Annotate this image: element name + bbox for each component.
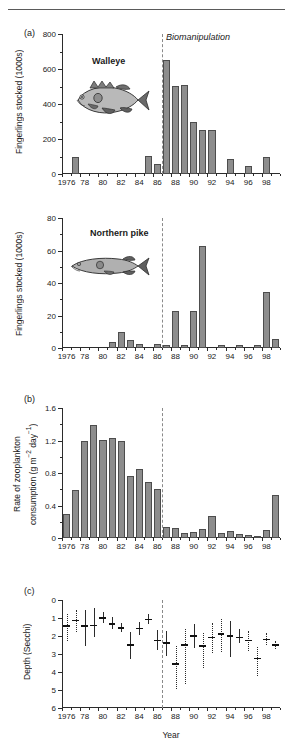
x-axis-tick: [271, 538, 272, 540]
x-axis-tick-label: 92: [207, 712, 216, 721]
x-axis-tick: [144, 708, 145, 710]
bar: [245, 535, 252, 538]
panel-northern-pike: Fingerlings stocked (1000s) 020406080197…: [0, 202, 292, 390]
bar: [154, 164, 161, 175]
x-axis-tick-label: 90: [189, 352, 198, 361]
x-axis-tick: [189, 708, 190, 711]
x-axis-tick-label: 90: [189, 178, 198, 187]
y-axis-minor-tick: [60, 299, 63, 300]
y-axis-tick-label: 0: [52, 170, 56, 179]
x-axis-tick: [89, 538, 90, 540]
x-axis-tick-label: 98: [262, 178, 271, 187]
y-axis-tick-label: 0: [52, 534, 56, 543]
bar: [227, 531, 234, 538]
y-axis-line: [62, 218, 63, 348]
bar: [190, 122, 197, 175]
y-axis-tick-label: 1.6: [45, 404, 56, 413]
bar: [218, 345, 225, 348]
x-axis-tick: [117, 174, 118, 177]
x-axis-tick: [144, 348, 145, 350]
bar: [227, 159, 234, 174]
panel-walleye: (a) Fingerlings stocked (1000s) 02004006…: [0, 22, 292, 202]
x-axis-tick-label: 82: [117, 542, 126, 551]
bar: [145, 156, 152, 174]
x-axis-tick: [153, 708, 154, 711]
x-axis-tick: [253, 538, 254, 540]
x-axis-tick-label: 96: [244, 352, 253, 361]
bar: [145, 482, 152, 538]
x-axis-tick: [207, 174, 208, 177]
x-axis-tick: [171, 538, 172, 541]
y-axis-tick-label: 0.8: [45, 469, 56, 478]
y-axis-tick-label: 0: [52, 596, 56, 605]
x-axis-tick-label: 84: [135, 178, 144, 187]
x-axis-tick-label: 78: [80, 542, 89, 551]
data-point-mean: [145, 619, 152, 621]
x-axis-tick-label: 94: [226, 542, 235, 551]
x-axis-tick: [271, 708, 272, 710]
bar: [190, 311, 197, 348]
data-point-mean: [81, 625, 88, 627]
biomanipulation-divider-line: [162, 34, 163, 174]
biomanipulation-annotation: Biomanipulation: [166, 32, 230, 42]
x-axis-tick: [126, 174, 127, 176]
data-point-mean: [236, 637, 243, 639]
x-axis-tick: [80, 538, 81, 541]
x-axis-tick: [253, 174, 254, 176]
x-axis-tick: [244, 708, 245, 711]
y-axis-tick: [58, 618, 62, 619]
x-axis-tick: [198, 538, 199, 540]
plot-area-secchi: 012345619767880828486889092949698: [62, 600, 280, 708]
x-axis-tick: [198, 348, 199, 350]
data-point-mean: [263, 639, 270, 641]
x-axis-tick: [162, 708, 163, 710]
data-point-mean: [136, 628, 143, 630]
error-bar: [185, 629, 186, 684]
y-axis-minor-tick: [60, 52, 63, 53]
y-axis-tick: [58, 104, 62, 105]
x-axis-tick-label: 80: [98, 712, 107, 721]
panel-label-c: (c): [24, 586, 35, 596]
error-bar: [230, 621, 231, 657]
panel-zooplankton: (b) Rate of zooplanktonconsumption (g m−…: [0, 390, 292, 580]
x-axis-tick: [280, 348, 281, 350]
x-axis-tick: [262, 174, 263, 177]
y-axis-tick: [58, 654, 62, 655]
y-axis-title-walleye: Fingerlings stocked (1000s): [14, 32, 24, 172]
data-point-mean: [245, 640, 252, 642]
x-axis-tick-label: 84: [135, 712, 144, 721]
bar: [118, 332, 125, 348]
x-axis-tick: [244, 174, 245, 177]
data-point-mean: [227, 635, 234, 637]
x-axis-tick: [235, 174, 236, 176]
x-axis-tick: [244, 538, 245, 541]
data-point-mean: [127, 644, 134, 646]
bar: [181, 533, 188, 538]
bar: [136, 469, 143, 538]
y-axis-tick-label: 6: [52, 704, 56, 713]
data-point-mean: [199, 645, 206, 647]
x-axis-tick: [135, 348, 136, 351]
error-bar: [221, 619, 222, 652]
x-axis-tick-label: 78: [80, 178, 89, 187]
bar: [263, 157, 270, 174]
x-axis-tick: [71, 348, 72, 350]
x-axis-tick: [271, 348, 272, 350]
error-bar: [85, 610, 86, 646]
x-axis-tick-label: 1976: [58, 178, 76, 187]
data-point-mean: [208, 637, 215, 639]
x-axis-tick-label: 96: [244, 542, 253, 551]
bar: [245, 166, 252, 174]
x-axis-tick: [126, 348, 127, 350]
x-axis-tick-label: 98: [262, 712, 271, 721]
x-axis-tick-label: 94: [226, 712, 235, 721]
y-axis-tick-label: 400: [43, 100, 56, 109]
bar: [272, 495, 279, 538]
top-divider-rule: [8, 9, 285, 10]
x-axis-tick-label: 88: [171, 542, 180, 551]
x-axis-tick-label: 1976: [58, 542, 76, 551]
x-axis-tick: [162, 538, 163, 540]
x-axis-tick: [180, 708, 181, 710]
x-axis-tick: [80, 174, 81, 177]
data-point-mean: [163, 642, 170, 644]
